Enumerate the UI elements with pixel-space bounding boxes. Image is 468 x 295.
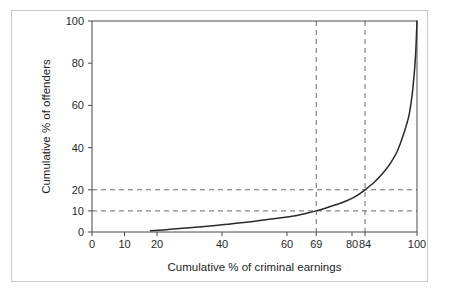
plot-area-background	[92, 21, 417, 232]
x-axis-title: Cumulative % of criminal earnings	[168, 261, 342, 273]
chart-svg: 01020406069808410001020406080100 Cumulat…	[0, 0, 468, 295]
y-axis-title: Cumulative % of offenders	[40, 59, 52, 194]
cumulative-earnings-chart: 01020406069808410001020406080100 Cumulat…	[0, 0, 468, 295]
x-tick-label-10: 10	[118, 238, 130, 250]
y-tick-label-100: 100	[66, 15, 84, 27]
x-tick-label-100: 100	[408, 238, 426, 250]
x-tick-label-80: 80	[346, 238, 358, 250]
figure-caption-fragment	[14, 286, 454, 295]
y-tick-label-60: 60	[72, 99, 84, 111]
y-tick-label-20: 20	[72, 184, 84, 196]
y-tick-label-80: 80	[72, 57, 84, 69]
y-tick-label-10: 10	[72, 205, 84, 217]
y-tick-label-40: 40	[72, 142, 84, 154]
x-tick-label-40: 40	[216, 238, 228, 250]
x-tick-label-60: 60	[281, 238, 293, 250]
x-tick-label-84: 84	[359, 238, 371, 250]
y-tick-label-0: 0	[78, 226, 84, 238]
x-tick-label-20: 20	[151, 238, 163, 250]
x-tick-label-0: 0	[89, 238, 95, 250]
x-tick-label-69: 69	[310, 238, 322, 250]
